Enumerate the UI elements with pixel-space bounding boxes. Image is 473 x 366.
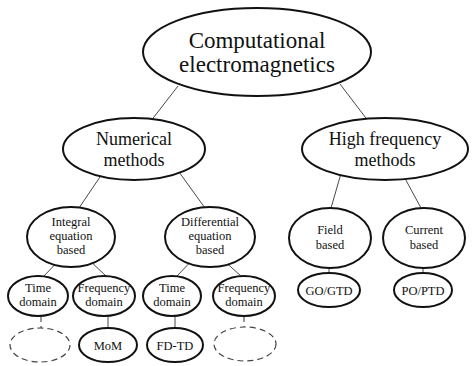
node-de-frequency-domain: Frequency domain xyxy=(213,276,275,316)
node-label: domain xyxy=(153,295,191,309)
node-label: GO/GTD xyxy=(305,284,352,298)
node-label: equation xyxy=(49,229,93,243)
node-de-freq-empty-leaf xyxy=(214,327,276,361)
node-integral-equation-based: Integral equation based xyxy=(27,207,115,267)
node-high-frequency-methods: High frequency methods xyxy=(302,118,468,180)
node-label: Numerical xyxy=(96,129,172,149)
node-ie-time-empty-leaf xyxy=(10,328,70,362)
node-label: PO/PTD xyxy=(401,284,444,298)
node-label: domain xyxy=(85,295,123,309)
node-fd-td: FD-TD xyxy=(147,328,203,362)
node-label: Current xyxy=(405,223,444,237)
node-label: High frequency xyxy=(329,129,441,149)
node-de-time-domain: Time domain xyxy=(143,276,201,316)
node-mom: MoM xyxy=(79,328,137,362)
node-label: domain xyxy=(19,295,57,309)
node-go-gtd: GO/GTD xyxy=(298,273,360,307)
node-label: Frequency xyxy=(78,281,132,295)
node-label: domain xyxy=(225,295,263,309)
cem-taxonomy-diagram: Computational electromagnetics Numerical… xyxy=(0,0,473,366)
node-label: MoM xyxy=(94,339,122,353)
node-numerical-methods: Numerical methods xyxy=(63,118,205,180)
node-label: Time xyxy=(25,281,51,295)
node-label: FD-TD xyxy=(157,339,194,353)
node-current-based: Current based xyxy=(383,208,465,268)
node-label: based xyxy=(57,243,86,257)
node-label: methods xyxy=(104,150,165,170)
node-label: Computational xyxy=(189,28,326,53)
node-label: based xyxy=(316,238,345,252)
node-ie-time-domain: Time domain xyxy=(8,276,68,316)
node-differential-equation-based: Differential equation based xyxy=(165,207,255,267)
node-label: electromagnetics xyxy=(179,52,335,77)
node-ie-frequency-domain: Frequency domain xyxy=(73,276,135,316)
node-label: Time xyxy=(159,281,185,295)
node-label: based xyxy=(410,238,439,252)
node-label: equation xyxy=(188,229,232,243)
node-label: Field xyxy=(317,223,343,237)
node-label: based xyxy=(196,243,225,257)
node-label: Differential xyxy=(181,215,240,229)
node-po-ptd: PO/PTD xyxy=(394,273,452,307)
node-computational-electromagnetics: Computational electromagnetics xyxy=(143,8,371,96)
node-label: methods xyxy=(355,150,416,170)
edge-numerical-differential xyxy=(179,172,205,208)
node-label: Integral xyxy=(52,215,91,229)
node-field-based: Field based xyxy=(289,208,371,268)
node-label: Frequency xyxy=(218,281,272,295)
